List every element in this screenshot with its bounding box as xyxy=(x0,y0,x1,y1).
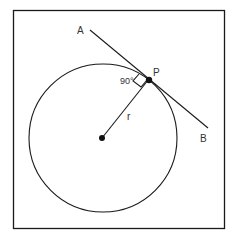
label-b: B xyxy=(200,133,207,144)
radius-line xyxy=(102,79,149,138)
diagram-frame xyxy=(14,11,225,229)
label-angle: 90° xyxy=(120,76,134,86)
tangent-diagram: A B P r 90° xyxy=(0,0,235,238)
point-p-dot xyxy=(146,77,152,83)
label-p: P xyxy=(153,67,160,78)
label-r: r xyxy=(127,111,131,122)
center-dot xyxy=(99,135,105,141)
label-a: A xyxy=(77,25,84,36)
